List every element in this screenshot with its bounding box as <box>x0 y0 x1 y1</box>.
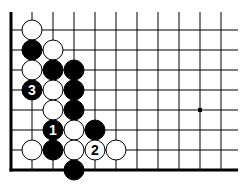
white-stone-icon <box>22 140 42 160</box>
black-stone-icon <box>85 120 105 140</box>
black-stone-icon <box>43 60 63 80</box>
white-stone-icon <box>22 60 42 80</box>
white-stone-icon <box>43 100 63 120</box>
white-stone <box>106 140 126 160</box>
white-stone <box>43 80 63 100</box>
black-stone-icon <box>64 160 84 180</box>
white-stone: 2 <box>85 140 105 160</box>
black-stone <box>64 100 84 120</box>
white-stone <box>22 60 42 80</box>
move-number-label: 1 <box>49 122 57 138</box>
star-point <box>198 108 202 112</box>
black-stone <box>43 60 63 80</box>
white-stone-icon <box>64 140 84 160</box>
black-stone-icon <box>64 100 84 120</box>
white-stone <box>64 140 84 160</box>
white-stone-icon <box>106 140 126 160</box>
black-stone <box>43 140 63 160</box>
white-stone-icon <box>64 120 84 140</box>
black-stone <box>64 80 84 100</box>
white-stone <box>43 100 63 120</box>
black-stone <box>85 120 105 140</box>
black-stone: 3 <box>22 80 42 100</box>
white-stone <box>64 120 84 140</box>
black-stone-icon <box>43 140 63 160</box>
white-stone <box>43 40 63 60</box>
black-stone <box>64 160 84 180</box>
white-stone-icon <box>22 20 42 40</box>
white-stone <box>22 140 42 160</box>
move-number-label: 3 <box>28 82 36 98</box>
white-stone <box>22 20 42 40</box>
move-number-label: 2 <box>91 142 99 158</box>
black-stone <box>22 40 42 60</box>
black-stone-icon <box>64 60 84 80</box>
star-points <box>198 108 202 112</box>
black-stone-icon <box>22 40 42 60</box>
black-stone-icon <box>64 80 84 100</box>
white-stone-icon <box>43 40 63 60</box>
black-stone: 1 <box>43 120 63 140</box>
go-board: 312 <box>0 0 250 190</box>
white-stone-icon <box>43 80 63 100</box>
black-stone <box>64 60 84 80</box>
